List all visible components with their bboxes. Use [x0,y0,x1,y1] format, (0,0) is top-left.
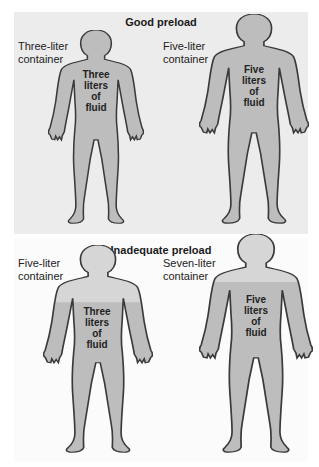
body-outline-icon [48,30,144,224]
fluid-label: Threeliters offluid [80,306,114,350]
body-outline-icon [199,14,309,224]
fluid-label: Fiveliters offluid [239,294,273,338]
fluid-label: Fiveliters offluid [237,64,271,108]
body-outline-icon [199,234,313,453]
fluid-label: Threeliters offluid [79,69,113,113]
